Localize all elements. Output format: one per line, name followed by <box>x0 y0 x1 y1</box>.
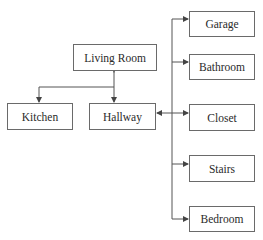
node-living-room: Living Room <box>73 44 157 71</box>
node-closet: Closet <box>189 104 255 131</box>
node-kitchen: Kitchen <box>7 103 73 130</box>
node-garage: Garage <box>189 11 255 37</box>
node-bedroom: Bedroom <box>189 206 255 232</box>
node-bathroom: Bathroom <box>189 54 255 80</box>
node-hallway: Hallway <box>89 103 156 130</box>
node-stairs: Stairs <box>189 155 255 182</box>
diagram-canvas: Living Room Kitchen Hallway Garage Bathr… <box>0 0 263 240</box>
edge-living-room-kitchen <box>39 87 114 102</box>
